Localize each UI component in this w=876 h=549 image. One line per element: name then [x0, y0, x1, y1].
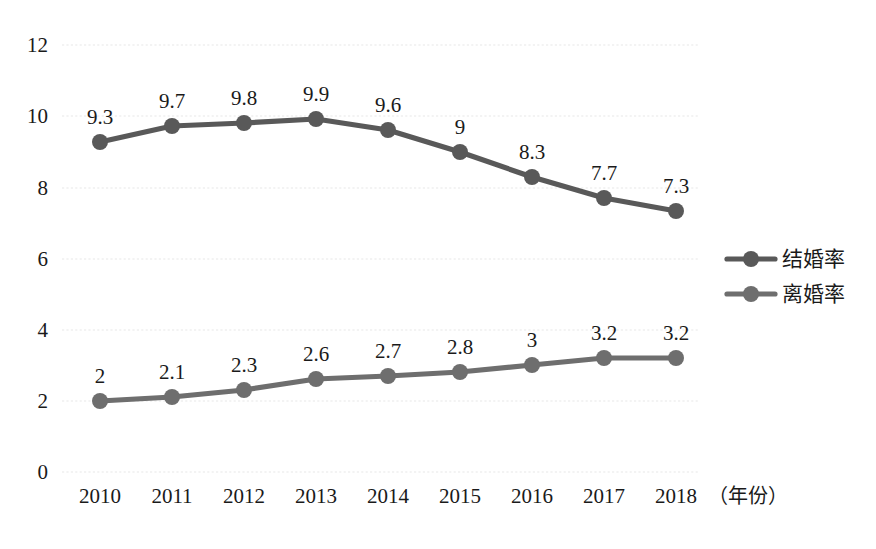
data-point-marker	[236, 115, 252, 131]
data-point-marker	[596, 350, 612, 366]
data-point-marker	[308, 111, 324, 127]
data-label: 7.7	[591, 161, 617, 185]
data-point-marker	[380, 122, 396, 138]
x-tick-2012: 2012	[223, 484, 265, 508]
data-label: 2.1	[159, 360, 185, 384]
data-label: 9.3	[87, 105, 113, 129]
legend-marker-divorce-rate	[743, 286, 759, 302]
y-tick-10: 10	[27, 104, 48, 128]
y-tick-0: 0	[38, 460, 49, 484]
data-point-marker	[164, 118, 180, 134]
legend-item-divorce-rate[interactable]: 离婚率	[727, 282, 845, 305]
data-point-marker	[92, 393, 108, 409]
data-label: 9.6	[375, 93, 401, 117]
data-point-marker	[164, 389, 180, 405]
y-tick-8: 8	[38, 176, 49, 200]
x-tick-2017: 2017	[583, 484, 625, 508]
y-tick-12: 12	[27, 33, 48, 57]
x-tick-2018: 2018	[655, 484, 697, 508]
data-label: 2.6	[303, 342, 329, 366]
data-label: 3	[527, 328, 538, 352]
x-tick-2010: 2010	[79, 484, 121, 508]
x-tick-2011: 2011	[151, 484, 192, 508]
legend-item-marriage-rate[interactable]: 结婚率	[727, 247, 845, 270]
data-label: 7.3	[663, 174, 689, 198]
data-point-marker	[668, 203, 684, 219]
data-label: 2.7	[375, 339, 401, 363]
data-label: 3.2	[591, 321, 617, 345]
data-point-marker	[380, 368, 396, 384]
data-point-marker	[92, 134, 108, 150]
x-tick-2013: 2013	[295, 484, 337, 508]
y-tick-4: 4	[38, 318, 49, 342]
data-label: 9.7	[159, 89, 185, 113]
data-point-marker	[452, 364, 468, 380]
x-tick-2014: 2014	[367, 484, 410, 508]
data-label: 9.9	[303, 82, 329, 106]
data-label: 9.8	[231, 86, 257, 110]
y-axis-tick-labels: 12 10 8 6 4 2 0	[27, 33, 49, 484]
data-label: 2.3	[231, 353, 257, 377]
data-label: 3.2	[663, 321, 689, 345]
data-point-marker	[308, 371, 324, 387]
data-label: 8.3	[519, 140, 545, 164]
data-label: 2.8	[447, 335, 473, 359]
y-tick-2: 2	[38, 389, 49, 413]
data-point-marker	[236, 382, 252, 398]
x-tick-2016: 2016	[511, 484, 553, 508]
x-tick-2015: 2015	[439, 484, 481, 508]
data-point-marker	[596, 190, 612, 206]
y-tick-6: 6	[38, 247, 49, 271]
chart-legend: 结婚率 离婚率	[727, 247, 845, 305]
x-axis-title: （年份）	[708, 485, 788, 507]
legend-label-marriage-rate: 结婚率	[782, 247, 845, 270]
data-point-marker	[524, 169, 540, 185]
data-point-marker	[524, 357, 540, 373]
x-axis-tick-labels: 2010 2011 2012 2013 2014 2015 2016 2017 …	[79, 484, 788, 508]
data-labels-marriage-rate: 9.3 9.7 9.8 9.9 9.6 9 8.3 7.7 7.3	[87, 82, 689, 198]
line-chart: 12 10 8 6 4 2 0 2010 2011 2012 2013 2014…	[0, 0, 876, 549]
legend-marker-marriage-rate	[743, 251, 759, 267]
data-point-marker	[668, 350, 684, 366]
legend-label-divorce-rate: 离婚率	[782, 282, 845, 305]
chart-page: 12 10 8 6 4 2 0 2010 2011 2012 2013 2014…	[0, 0, 876, 549]
data-label: 9	[455, 115, 466, 139]
data-label: 2	[95, 364, 106, 388]
data-point-marker	[452, 144, 468, 160]
